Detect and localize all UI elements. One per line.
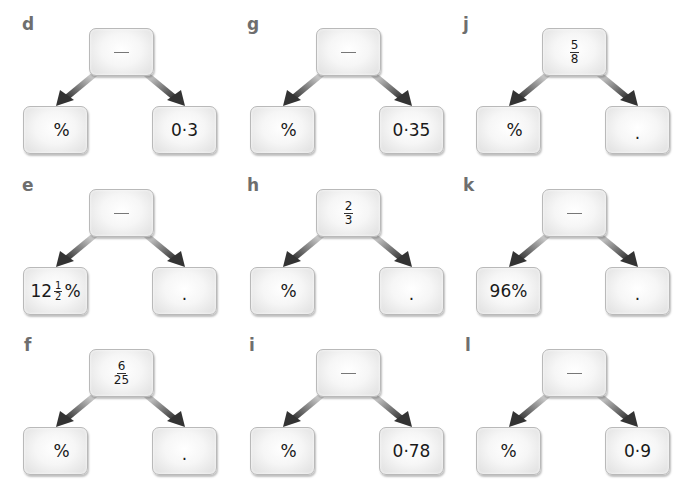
decimal-value: . (182, 284, 187, 304)
fraction: 12 (54, 281, 62, 302)
exercise-e: e 12 12 % . (0, 181, 230, 341)
percent-box[interactable]: % (250, 427, 315, 475)
percent-value: % (268, 281, 296, 301)
blank-line (114, 213, 129, 214)
exercise-i: i % 0·78 (227, 341, 457, 487)
numerator: 2 (344, 200, 354, 214)
percent-value: % (268, 441, 296, 461)
percent-box[interactable]: % (476, 106, 541, 154)
fraction: 58 (570, 39, 580, 66)
denominator: 8 (571, 53, 579, 66)
numerator: 1 (54, 281, 62, 292)
decimal-value: . (635, 123, 640, 143)
percent-box[interactable]: % (250, 267, 315, 315)
decimal-box[interactable]: . (379, 267, 444, 315)
decimal-box[interactable]: . (605, 267, 670, 315)
numerator: 6 (117, 360, 127, 374)
decimal-value: 0·9 (624, 441, 651, 461)
percent-value: % (500, 441, 516, 461)
exercise-f: f 625 % . (0, 341, 230, 487)
exercise-j: j 58 % . (453, 20, 683, 180)
decimal-box[interactable]: . (152, 267, 217, 315)
mixed-number: 12 12 % (30, 281, 80, 302)
blank-line (341, 52, 356, 53)
decimal-box[interactable]: . (152, 427, 217, 475)
fraction-box[interactable] (542, 189, 607, 237)
decimal-value: 0·35 (393, 120, 431, 140)
percent-box[interactable]: 12 12 % (23, 267, 88, 315)
decimal-box[interactable]: 0·9 (605, 427, 670, 475)
percent-value: % (268, 120, 296, 140)
fraction: 23 (344, 200, 354, 227)
numerator: 5 (570, 39, 580, 53)
exercise-g: g % 0·35 (227, 20, 457, 180)
denominator: 2 (55, 292, 61, 302)
fraction-box[interactable]: 58 (542, 28, 607, 76)
decimal-box[interactable]: 0·78 (379, 427, 444, 475)
percent-box[interactable]: % (476, 427, 541, 475)
fraction-box[interactable] (316, 28, 381, 76)
exercise-k: k 96% . (453, 181, 683, 341)
decimal-value: . (182, 444, 187, 464)
fraction-box[interactable] (89, 189, 154, 237)
percent-value: 96% (490, 281, 528, 301)
blank-line (567, 373, 582, 374)
exercise-l: l % 0·9 (453, 341, 683, 487)
percent-box[interactable]: % (23, 427, 88, 475)
exercise-d: d % 0·3 (0, 20, 230, 180)
percent-box[interactable]: 96% (476, 267, 541, 315)
decimal-value: . (409, 284, 414, 304)
decimal-box[interactable]: 0·35 (379, 106, 444, 154)
decimal-value: 0·3 (171, 120, 198, 140)
fraction-box[interactable] (542, 349, 607, 397)
decimal-box[interactable]: 0·3 (152, 106, 217, 154)
fraction-box[interactable]: 625 (89, 349, 154, 397)
blank-line (341, 373, 356, 374)
percent-value: % (494, 120, 522, 140)
percent-value: % (41, 120, 69, 140)
fraction-box[interactable]: 23 (316, 189, 381, 237)
decimal-value: . (635, 284, 640, 304)
percent-value: % (41, 441, 69, 461)
fraction-box[interactable] (316, 349, 381, 397)
denominator: 25 (114, 374, 129, 387)
fraction-box[interactable] (89, 28, 154, 76)
whole-part: 12 (30, 281, 52, 301)
blank-line (114, 52, 129, 53)
denominator: 3 (345, 214, 353, 227)
decimal-value: 0·78 (393, 441, 431, 461)
decimal-box[interactable]: . (605, 106, 670, 154)
percent-sign: % (64, 281, 80, 301)
exercise-h: h 23 % . (227, 181, 457, 341)
blank-line (567, 213, 582, 214)
fraction: 625 (114, 360, 129, 387)
percent-box[interactable]: % (250, 106, 315, 154)
percent-box[interactable]: % (23, 106, 88, 154)
